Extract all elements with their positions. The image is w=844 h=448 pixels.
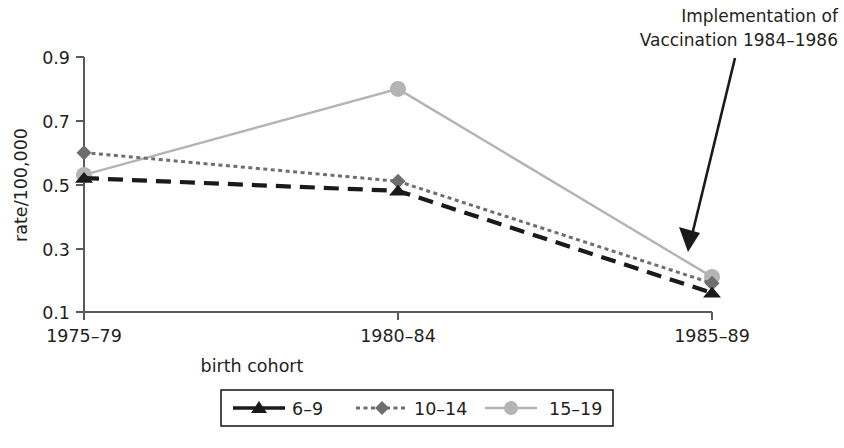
x-category-label-1980-84: 1980–84 [360, 326, 436, 346]
x-category-label-1985-89: 1985–89 [674, 326, 750, 346]
circle-marker-icon [504, 401, 518, 415]
y-axis-title: rate/100,000 [11, 128, 31, 242]
y-tick-label-3: 0.3 [42, 240, 70, 260]
line-chart-svg: 0.9 0.7 0.5 0.3 0.1 rate/100,000 1975–79… [0, 0, 844, 448]
y-tick-label-2: 0.5 [42, 176, 70, 196]
legend-label-10-14: 10–14 [414, 399, 467, 419]
circle-marker-icon [390, 81, 406, 97]
x-axis-title: birth cohort [201, 356, 304, 376]
legend-label-6-9: 6–9 [292, 399, 323, 419]
y-tick-label-0: 0.9 [42, 48, 70, 68]
legend-label-15-19: 15–19 [549, 399, 602, 419]
chart-figure: 0.9 0.7 0.5 0.3 0.1 rate/100,000 1975–79… [0, 0, 844, 448]
y-tick-label-4: 0.1 [42, 303, 70, 323]
y-tick-label-1: 0.7 [42, 112, 70, 132]
annotation-line-2: Vaccination 1984–1986 [640, 30, 838, 50]
chart-background [0, 0, 844, 448]
annotation-line-1: Implementation of [681, 6, 839, 26]
x-category-label-1975-79: 1975–79 [46, 326, 122, 346]
